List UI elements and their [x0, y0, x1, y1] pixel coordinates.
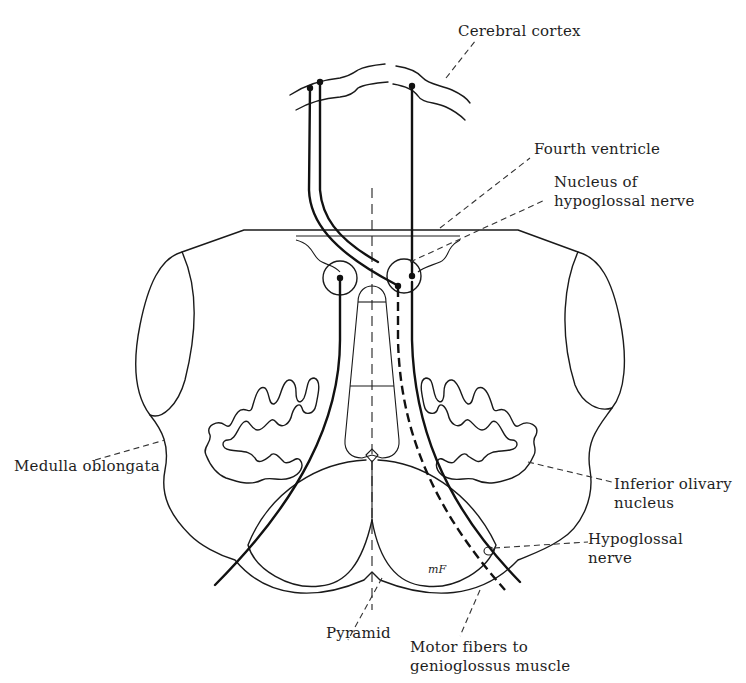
- cerebral-cortex-right: [393, 66, 470, 120]
- hypoglossal-nucleus-right: [387, 259, 421, 293]
- label-medulla-oblongata: Medulla oblongata: [14, 457, 160, 476]
- leader-nucleus: [410, 200, 545, 262]
- leader-inferior-olivary: [528, 462, 612, 482]
- leader-hypoglossal-nerve: [494, 542, 588, 548]
- inferior-olivary-nucleus-left: [205, 378, 319, 483]
- cerebral-cortex-left: [290, 64, 388, 110]
- nucleus-neuron-right: [409, 273, 415, 279]
- nucleus-neuron-left: [337, 275, 343, 281]
- label-motor-line2: genioglossus muscle: [410, 657, 570, 676]
- label-hypoglossal-line1: Hypoglossal: [588, 530, 683, 549]
- corticobulbar-tracts: [309, 82, 412, 284]
- leader-motor-fibers: [460, 590, 480, 636]
- fourth-ventricle: [296, 236, 460, 272]
- label-hypoglossal-line2: nerve: [588, 549, 632, 568]
- label-inferior-olivary-line1: Inferior olivary: [614, 475, 732, 494]
- hypoglossal-nerve-fibers: [215, 278, 520, 590]
- label-pyramid: Pyramid: [326, 624, 391, 643]
- leader-cerebral-cortex: [446, 40, 476, 78]
- medulla-outline: [136, 230, 625, 593]
- label-nucleus-line2: hypoglossal nerve: [554, 192, 695, 211]
- leader-fourth-ventricle: [440, 158, 530, 228]
- medulla-diagram: [0, 0, 746, 683]
- label-fourth-ventricle: Fourth ventricle: [534, 140, 660, 159]
- cortex-neuron-left-1: [307, 85, 313, 91]
- nucleus-neuron-right-2: [395, 283, 401, 289]
- label-nucleus-line1: Nucleus of: [554, 173, 638, 192]
- cortex-neuron-right: [409, 83, 415, 89]
- label-cerebral-cortex: Cerebral cortex: [458, 22, 581, 41]
- artist-signature: mF: [428, 563, 446, 576]
- lateral-region-left: [150, 252, 194, 416]
- label-inferior-olivary-line2: nucleus: [614, 494, 674, 513]
- cortex-neuron-left-2: [317, 79, 323, 85]
- label-motor-line1: Motor fibers to: [410, 638, 528, 657]
